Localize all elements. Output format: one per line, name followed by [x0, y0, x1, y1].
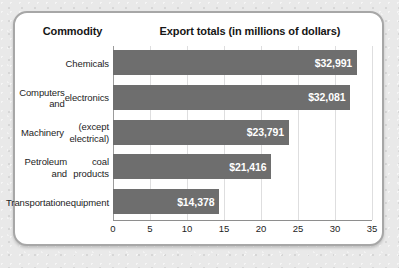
x-tick-label: 30	[330, 223, 341, 234]
plot-area: $32,991$32,081$23,791$21,416$14,378	[113, 46, 372, 220]
bar-row: $32,991	[113, 46, 372, 81]
bar[interactable]: $14,378	[113, 189, 219, 214]
chart-title: Export totals (in millions of dollars)	[120, 25, 380, 37]
x-axis-line	[113, 220, 372, 221]
category-label: Petroleum andcoal products	[21, 150, 109, 185]
bar-value-label: $32,991	[315, 57, 352, 69]
category-label-column: ChemicalsComputers andelectronicsMachine…	[21, 46, 109, 220]
bar[interactable]: $32,991	[113, 50, 357, 75]
x-axis-tick-labels: 05101520253035	[113, 223, 372, 239]
bar-value-label: $14,378	[177, 196, 214, 208]
bar-row: $23,791	[113, 116, 372, 151]
bar[interactable]: $23,791	[113, 120, 289, 145]
x-tick-label: 20	[256, 223, 267, 234]
x-tick-label: 25	[293, 223, 304, 234]
x-tick-label: 10	[182, 223, 193, 234]
x-tick-label: 15	[219, 223, 230, 234]
x-tick-label: 0	[110, 223, 115, 234]
x-tick-label: 5	[147, 223, 152, 234]
category-label: Chemicals	[21, 46, 109, 81]
bar-value-label: $21,416	[229, 161, 266, 173]
bar-row: $32,081	[113, 81, 372, 116]
category-label: Machinery(except electrical)	[21, 116, 109, 151]
bar-value-label: $32,081	[308, 91, 345, 103]
commodity-column-header: Commodity	[25, 25, 120, 37]
bar-row: $14,378	[113, 185, 372, 220]
gridline	[372, 46, 373, 220]
chart-card: Commodity Export totals (in millions of …	[13, 11, 384, 246]
bar-rows: $32,991$32,081$23,791$21,416$14,378	[113, 46, 372, 220]
bar-chart: Commodity Export totals (in millions of …	[15, 13, 382, 244]
bar-value-label: $23,791	[247, 126, 284, 138]
bar[interactable]: $21,416	[113, 154, 271, 179]
x-tick-label: 35	[367, 223, 378, 234]
bar-row: $21,416	[113, 150, 372, 185]
category-label: Computers andelectronics	[21, 81, 109, 116]
category-label: Transportationequipment	[21, 185, 109, 220]
bar[interactable]: $32,081	[113, 85, 350, 110]
